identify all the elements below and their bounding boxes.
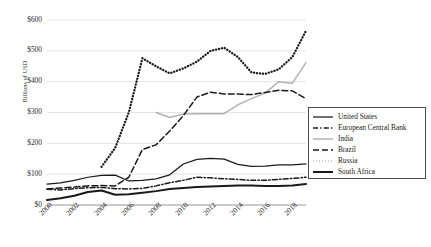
y-tick-label: $100 [8, 170, 42, 178]
legend-label: European Central Bank [338, 123, 407, 133]
legend-swatch-icon [312, 123, 334, 133]
legend-label: Brazil [338, 145, 356, 155]
y-tick-label: $200 [8, 139, 42, 147]
legend-swatch-icon [312, 134, 334, 144]
y-tick-label: $300 [8, 108, 42, 116]
y-tick-label: $500 [8, 46, 42, 54]
y-tick-label: $600 [8, 16, 42, 24]
legend-swatch-icon [312, 167, 334, 177]
y-tick-label: $0 [8, 201, 42, 209]
legend-item-russia[interactable]: Russia [312, 155, 423, 166]
chart-legend: United StatesEuropean Central BankIndiaB… [308, 107, 426, 179]
legend-item-european-central-bank[interactable]: European Central Bank [312, 122, 423, 133]
legend-item-india[interactable]: India [312, 133, 423, 144]
legend-swatch-icon [312, 112, 334, 122]
legend-item-south-africa[interactable]: South Africa [312, 166, 423, 177]
legend-label: Russia [338, 156, 357, 166]
legend-item-united-states[interactable]: United States [312, 111, 423, 122]
legend-label: United States [338, 112, 377, 122]
legend-swatch-icon [312, 145, 334, 155]
series-line [102, 31, 306, 167]
chart-container: Billions of USD $600$500$400$300$200$100… [0, 0, 431, 247]
legend-label: India [338, 134, 353, 144]
legend-item-brazil[interactable]: Brazil [312, 144, 423, 155]
legend-swatch-icon [312, 156, 334, 166]
y-tick-label: $400 [8, 77, 42, 85]
legend-label: South Africa [338, 167, 375, 177]
